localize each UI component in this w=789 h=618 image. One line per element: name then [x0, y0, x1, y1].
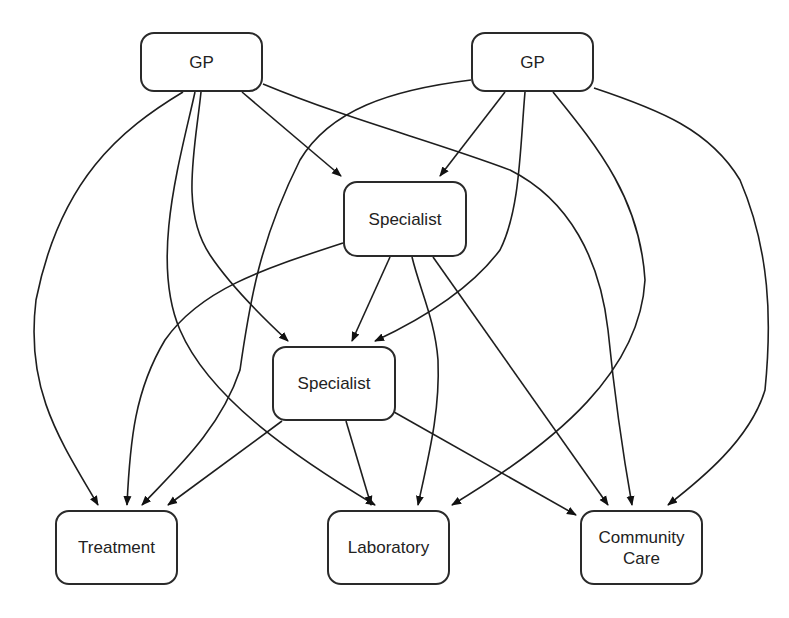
node-specialist-lower[interactable]: Specialist — [272, 346, 396, 421]
diagram-canvas: GP GP Specialist Specialist Treatment La… — [0, 0, 789, 618]
node-label: GP — [520, 52, 545, 73]
edge-spec2-to-laboratory — [346, 421, 371, 505]
node-treatment[interactable]: Treatment — [55, 510, 178, 585]
edge-spec1-to-laboratory — [412, 257, 438, 505]
edge-gp2-to-spec1 — [440, 92, 505, 176]
node-label: Community Care — [599, 527, 685, 569]
edge-gp2-to-community — [594, 88, 768, 505]
edge-spec1-to-community — [433, 257, 608, 505]
edge-gp1-to-spec2 — [192, 92, 288, 341]
node-label: GP — [189, 52, 214, 73]
node-gp-left[interactable]: GP — [140, 32, 263, 92]
edge-gp2-to-laboratory — [452, 92, 645, 505]
edge-spec1-to-spec2 — [352, 257, 390, 341]
node-label: Laboratory — [348, 537, 429, 558]
node-community-care[interactable]: Community Care — [580, 510, 703, 585]
node-label: Specialist — [369, 209, 442, 230]
edge-spec2-to-community — [394, 412, 576, 515]
node-label: Specialist — [298, 373, 371, 394]
node-specialist-upper[interactable]: Specialist — [343, 181, 467, 257]
node-laboratory[interactable]: Laboratory — [327, 510, 450, 585]
edge-gp1-to-spec1 — [242, 92, 341, 176]
node-label: Treatment — [78, 537, 155, 558]
edge-gp2-to-treatment — [142, 80, 471, 505]
edge-spec2-to-treatment — [168, 421, 282, 505]
node-gp-right[interactable]: GP — [471, 32, 594, 92]
edge-gp1-to-treatment — [34, 92, 183, 505]
